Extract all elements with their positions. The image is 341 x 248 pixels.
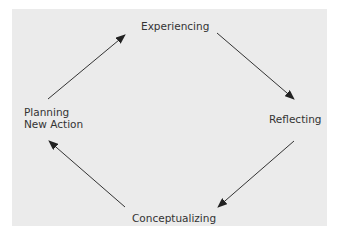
arrow-conceptualizing-to-planning [49, 141, 125, 207]
arrow-experiencing-to-reflecting [217, 33, 294, 99]
node-experiencing: Experiencing [141, 20, 209, 32]
node-reflecting: Reflecting [269, 113, 322, 125]
arrow-reflecting-to-conceptualizing [218, 141, 294, 207]
node-planning: Planning New Action [24, 106, 83, 130]
arrow-planning-to-experiencing [48, 35, 125, 99]
node-planning-line1: Planning [24, 106, 83, 118]
node-planning-line2: New Action [24, 118, 83, 130]
node-conceptualizing: Conceptualizing [132, 212, 216, 224]
